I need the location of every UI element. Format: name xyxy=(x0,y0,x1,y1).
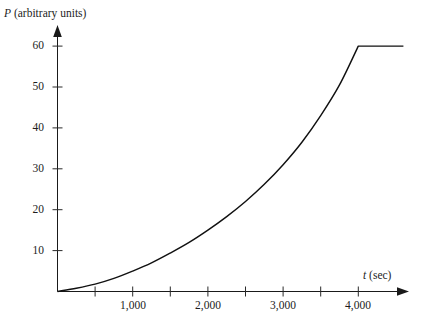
chart-figure: 10 20 30 40 50 60 1,000 2,000 3,000 4,00… xyxy=(0,0,428,322)
x-tick-label-3000: 3,000 xyxy=(253,300,313,312)
y-axis-arrowhead xyxy=(53,25,62,37)
x-axis-label: t (sec) xyxy=(363,270,391,282)
y-axis-label-unit: (arbitrary units) xyxy=(14,7,87,19)
y-tick-label-50: 50 xyxy=(4,81,44,93)
pressure-curve xyxy=(58,46,404,291)
y-tick-label-60: 60 xyxy=(4,40,44,52)
x-tick-label-2000: 2,000 xyxy=(178,300,238,312)
x-axis-label-symbol: t xyxy=(363,269,366,281)
y-axis-label-symbol: P xyxy=(4,7,11,19)
y-tick-label-20: 20 xyxy=(4,204,44,216)
y-tick-label-40: 40 xyxy=(4,122,44,134)
x-axis-arrowhead xyxy=(397,287,409,296)
x-tick-label-1000: 1,000 xyxy=(103,300,163,312)
y-tick-label-30: 30 xyxy=(4,163,44,175)
x-tick-label-4000: 4,000 xyxy=(328,300,388,312)
y-tick-label-10: 10 xyxy=(4,245,44,257)
x-axis-label-unit: (sec) xyxy=(369,269,391,281)
y-axis-group xyxy=(53,25,62,292)
x-axis-group xyxy=(58,287,410,296)
y-axis-label: P (arbitrary units) xyxy=(4,8,86,20)
